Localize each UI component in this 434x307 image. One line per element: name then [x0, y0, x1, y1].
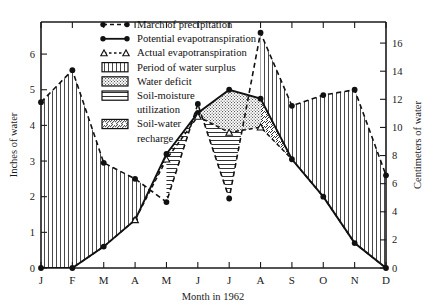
month-label: A: [257, 274, 265, 286]
legend-item: Period of water surplus: [102, 62, 236, 73]
precip-point: [289, 103, 295, 109]
left-tick-label: 2: [30, 191, 35, 202]
precip-point: [195, 101, 201, 107]
legend-marker-dot: [124, 36, 129, 41]
legend-label-continued: utilization: [137, 104, 181, 115]
month-label: J: [39, 274, 44, 286]
pe-point: [38, 265, 44, 271]
month-label: F: [69, 274, 75, 286]
month-label: J: [196, 274, 201, 286]
right-tick-label: 10: [392, 122, 403, 133]
legend-item: Water deficit: [102, 76, 192, 87]
legend-label-continued: recharge: [137, 133, 174, 144]
legend-swatch-vertical-lines: [102, 63, 128, 72]
legend-item: Soil-water: [102, 118, 182, 129]
left-tick-label: 4: [30, 120, 36, 131]
legend-label: Period of water surplus: [137, 62, 236, 73]
right-tick-label: 2: [392, 234, 397, 245]
precip-point: [320, 92, 326, 98]
precip-point: [258, 30, 264, 36]
pe-point: [383, 265, 389, 271]
month-label: J: [227, 274, 232, 286]
legend-label: Soil-moisture: [137, 90, 195, 101]
y-axis-title-right: Centimeters of water: [412, 100, 423, 189]
month-label: N: [351, 274, 359, 286]
precip-point: [164, 199, 170, 205]
left-tick-label: 1: [30, 227, 35, 238]
precip-point: [226, 196, 232, 202]
legend-swatch-diagonal-hatch: [102, 119, 128, 128]
legend-label: March of precipitation: [137, 19, 233, 30]
x-axis-title: Month in 1962: [182, 291, 244, 302]
pe-point: [101, 244, 107, 250]
legend-marker-dot: [100, 36, 105, 41]
precip-point: [132, 176, 138, 182]
right-tick-label: 4: [392, 206, 398, 217]
pe-point: [289, 156, 295, 162]
left-tick-label: 5: [30, 84, 35, 95]
water-balance-chart: 0123456 0246810121416 JFMAMJJASOND Inche…: [0, 0, 434, 307]
legend-swatch-stipple: [102, 77, 128, 86]
legend-swatch-horizontal-lines: [102, 91, 128, 100]
right-tick-label: 8: [392, 150, 397, 161]
right-tick-label: 14: [392, 66, 403, 77]
chart-canvas: 0123456 0246810121416 JFMAMJJASOND Inche…: [0, 0, 434, 307]
left-tick-label: 0: [30, 263, 35, 274]
right-tick-label: 16: [392, 38, 403, 49]
right-tick-label: 6: [392, 178, 397, 189]
month-label: A: [131, 274, 139, 286]
precip-point: [383, 172, 389, 178]
month-label: M: [99, 274, 109, 286]
legend-item: Soil-moisture: [102, 90, 195, 101]
precip-point: [101, 160, 107, 166]
precip-point: [38, 99, 44, 105]
pe-point: [226, 87, 232, 93]
precip-point: [352, 87, 358, 93]
legend-label: Potential evapotranspiration: [137, 33, 257, 44]
pe-point: [320, 194, 326, 200]
legend-marker-dot: [100, 22, 105, 27]
right-tick-label: 0: [392, 263, 397, 274]
pe-point: [69, 265, 75, 271]
left-tick-label: 3: [30, 156, 35, 167]
pe-point: [352, 240, 358, 246]
left-tick-label: 6: [30, 49, 35, 60]
legend-marker-dot: [124, 22, 129, 27]
right-tick-label: 12: [392, 94, 403, 105]
legend-label: Soil-water: [137, 118, 182, 129]
y-axis-title-left: Inches of water: [8, 112, 19, 177]
month-label: M: [162, 274, 172, 286]
legend-label: Water deficit: [137, 76, 192, 87]
precip-point: [69, 67, 75, 73]
month-label: O: [319, 274, 327, 286]
pe-point: [258, 96, 264, 102]
month-label: D: [382, 274, 390, 286]
legend-label: Actual evapotranspiration: [137, 47, 247, 58]
month-label: S: [289, 274, 295, 286]
